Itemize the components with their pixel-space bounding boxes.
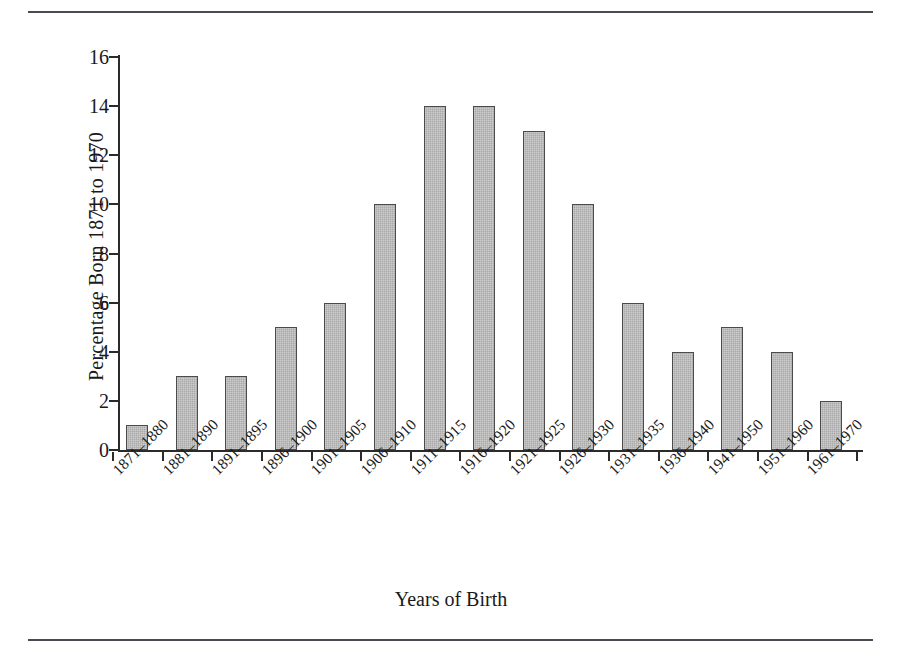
y-axis-tick [109,400,118,402]
y-axis-tick-label: 12 [9,145,109,165]
y-axis-tick-label: 2 [9,391,109,411]
y-axis-tick-label: 0 [9,440,109,460]
y-axis-tick [109,203,118,205]
y-axis-tick-label: 10 [9,194,109,214]
y-axis-tick [109,302,118,304]
bar [424,106,446,450]
y-axis-tick [109,56,118,58]
bar [572,204,594,450]
bar [523,131,545,450]
y-axis-tick-label: 16 [9,47,109,67]
y-axis-tick-label: 8 [9,244,109,264]
y-axis-tick-label: 6 [9,293,109,313]
bar [622,303,644,450]
bar-chart-plot: Percentage Born 1871 to 1970 02468101214… [0,0,902,656]
bar [374,204,396,450]
y-axis-tick-label: 14 [9,96,109,116]
y-axis-tick-label: 4 [9,342,109,362]
y-axis-tick [109,449,118,451]
figure-container: Percentage Born 1871 to 1970 02468101214… [0,0,902,656]
y-axis-line [118,55,120,452]
y-axis-tick [109,351,118,353]
bar [324,303,346,450]
x-axis-tick [856,452,858,461]
y-axis-tick [109,154,118,156]
y-axis-tick [109,105,118,107]
x-axis-title: Years of Birth [0,588,902,611]
bar [473,106,495,450]
y-axis-tick [109,253,118,255]
